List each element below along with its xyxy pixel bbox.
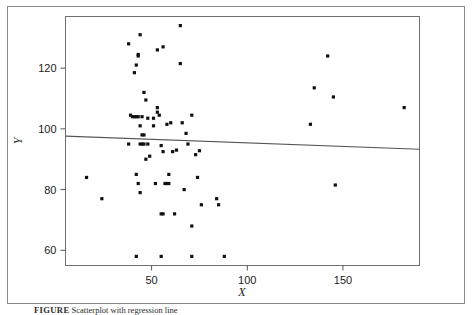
data-point xyxy=(173,212,176,215)
data-point xyxy=(135,63,138,66)
y-axis: 6080100120 xyxy=(38,62,65,256)
data-point xyxy=(167,173,170,176)
data-point xyxy=(186,142,189,145)
y-tick-label: 80 xyxy=(44,184,56,196)
y-tick-label: 120 xyxy=(38,62,56,74)
data-point xyxy=(127,42,130,45)
caption-label: FIGURE xyxy=(34,305,69,315)
data-point xyxy=(161,150,164,153)
data-point xyxy=(179,62,182,65)
data-point xyxy=(190,255,193,258)
x-tick-label: 50 xyxy=(145,274,157,286)
data-point xyxy=(217,203,220,206)
data-point xyxy=(181,121,184,124)
data-point xyxy=(184,132,187,135)
data-point xyxy=(85,176,88,179)
data-point xyxy=(156,106,159,109)
data-point xyxy=(133,71,136,74)
x-tick-label: 100 xyxy=(238,274,256,286)
data-point xyxy=(160,255,163,258)
data-point xyxy=(146,117,149,120)
data-point xyxy=(190,224,193,227)
data-point xyxy=(139,124,142,127)
data-point xyxy=(183,188,186,191)
data-point xyxy=(169,121,172,124)
data-point xyxy=(152,117,155,120)
data-point xyxy=(194,153,197,156)
data-point xyxy=(215,197,218,200)
data-point xyxy=(158,114,161,117)
data-point xyxy=(144,158,147,161)
data-point xyxy=(223,255,226,258)
data-point xyxy=(156,48,159,51)
data-point xyxy=(146,142,149,145)
data-point xyxy=(196,176,199,179)
data-point xyxy=(160,144,163,147)
scatter-plot: 6080100120 50100150 X Y xyxy=(0,0,472,315)
data-point xyxy=(137,182,140,185)
data-point xyxy=(309,123,312,126)
data-point xyxy=(179,24,182,27)
data-point xyxy=(142,142,145,145)
data-point xyxy=(167,182,170,185)
x-axis: 50100150 xyxy=(145,266,352,286)
figure-caption: FIGURE Scatterplot with regression line xyxy=(34,305,464,315)
data-point xyxy=(137,54,140,57)
data-point xyxy=(198,149,201,152)
data-point xyxy=(403,106,406,109)
x-axis-title: X xyxy=(237,285,246,299)
y-tick-label: 100 xyxy=(38,123,56,135)
plot-frame xyxy=(66,17,420,266)
figure-container: 6080100120 50100150 X Y FIGURE Scatterpl… xyxy=(0,0,472,315)
data-point xyxy=(326,54,329,57)
data-point xyxy=(171,150,174,153)
data-point xyxy=(152,124,155,127)
data-point xyxy=(165,123,168,126)
data-point xyxy=(334,183,337,186)
data-point xyxy=(156,111,159,114)
data-point xyxy=(135,173,138,176)
data-point xyxy=(142,133,145,136)
data-point xyxy=(139,191,142,194)
data-point xyxy=(100,197,103,200)
data-point xyxy=(332,95,335,98)
y-tick-label: 60 xyxy=(44,244,56,256)
x-tick-label: 150 xyxy=(334,274,352,286)
data-point xyxy=(148,155,151,158)
y-axis-title: Y xyxy=(11,136,25,144)
data-point xyxy=(140,115,143,118)
caption-body: Scatterplot with regression line xyxy=(72,305,178,315)
data-point xyxy=(142,91,145,94)
data-point xyxy=(144,98,147,101)
data-point xyxy=(135,255,138,258)
data-point xyxy=(154,182,157,185)
data-point xyxy=(161,45,164,48)
data-point xyxy=(175,149,178,152)
data-point xyxy=(127,142,130,145)
data-point xyxy=(313,86,316,89)
data-point xyxy=(139,33,142,36)
data-point xyxy=(190,114,193,117)
data-point xyxy=(135,115,138,118)
data-point xyxy=(200,203,203,206)
data-point xyxy=(129,114,132,117)
data-point xyxy=(161,212,164,215)
